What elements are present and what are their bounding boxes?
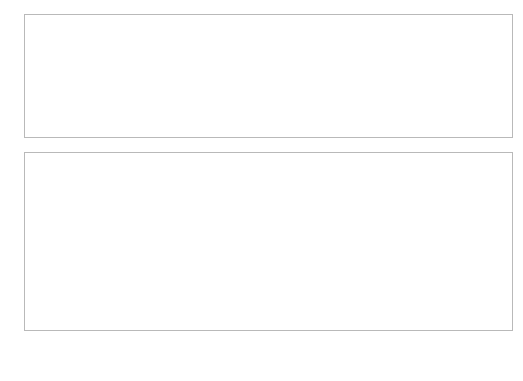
x-axis-tick-labels [24,333,513,349]
truncated-caption-sliver [40,0,340,6]
growth-rate-chart [24,14,513,138]
growth-rate-plot-area [25,15,512,137]
ethanol-output-plot-area [25,153,512,330]
ethanol-output-chart [24,152,513,331]
